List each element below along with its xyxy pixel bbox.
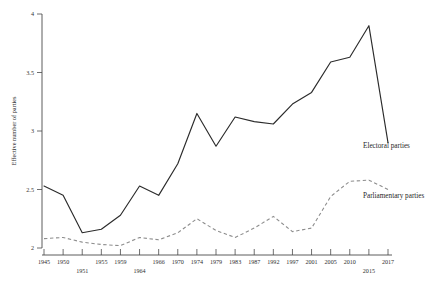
parliamentary-parties-line [44,180,388,246]
x-tick-label: 1964 [133,268,145,274]
legend-label-parliamentary: Parliamentary parties [363,192,424,200]
y-tick-label: 2 [31,244,34,251]
x-tick-label: 1955 [95,259,107,265]
x-tick-label: 2005 [325,259,337,265]
y-tick-label: 4 [31,10,34,17]
legend-label-electoral: Electoral parties [363,142,410,150]
x-tick-label: 1997 [286,259,298,265]
x-tick-label-group: 1945195019511955195919641966197019741979… [38,259,394,274]
x-tick-label: 2001 [305,259,317,265]
electoral-parties-line [44,26,388,233]
x-tick-label: 1945 [38,259,50,265]
x-tick-label: 1983 [229,259,241,265]
x-tick-label: 1987 [248,259,260,265]
x-tick-label: 2015 [363,268,375,274]
x-tick-label: 1970 [172,259,184,265]
y-axis-title: Effective number of parties [10,96,17,165]
x-tick-label: 1951 [76,268,88,274]
y-tick-label: 3 [31,127,34,134]
series-group [44,26,388,246]
x-tick-label: 1950 [57,259,69,265]
x-tick-label: 1979 [210,259,222,265]
x-tick-label: 1992 [267,259,279,265]
y-tick-label: 2.5 [26,186,34,193]
x-axis [42,249,392,255]
y-tick-label: 3.5 [26,69,34,76]
x-tick-label: 1966 [153,259,165,265]
y-axis: 22.533.54 [26,10,42,251]
x-tick-label: 1974 [191,259,203,265]
x-tick-label: 1959 [114,259,126,265]
x-tick-label: 2010 [344,259,356,265]
line-chart: 22.533.54 194519501951195519591964196619… [0,0,439,289]
x-tick-label: 2017 [382,259,394,265]
chart-page: 22.533.54 194519501951195519591964196619… [0,0,439,289]
